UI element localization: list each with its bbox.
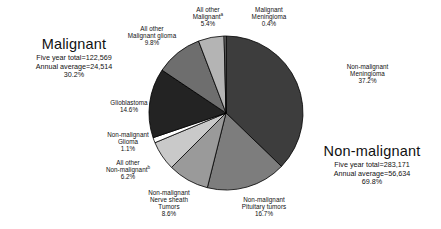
slice-label-all-other-nonmalignant: All other Non-malignantb 6.2% — [86, 159, 170, 180]
slice-label-line2: Meningioma — [252, 13, 287, 20]
slice-label-line1: Non-malignant — [347, 63, 389, 70]
summary-malignant: Malignant Five year total=122,569 Annual… — [6, 36, 142, 80]
summary-nonmalignant: Non-malignant Five year total=283,171 An… — [306, 143, 438, 187]
slice-label-nonmalignant-meningioma: Non-malignant Meningioma 37.2% — [320, 63, 415, 84]
slice-label-line1: All other — [140, 25, 164, 32]
slice-label-line2: Malignant — [193, 13, 221, 20]
slice-label-line1: All other — [196, 6, 220, 13]
slice-label-line1: Non-malignant — [107, 131, 149, 138]
slice-label-line2: Non-malignant — [106, 166, 148, 173]
pie-slice-group: Non-malignant Meningioma 37.2%Non-malign… — [149, 36, 303, 190]
summary-percent: 69.8% — [306, 178, 438, 186]
footnote-marker: a — [221, 12, 224, 17]
summary-heading: Malignant — [6, 36, 142, 53]
slice-label-percent: 0.4% — [238, 20, 300, 27]
summary-heading: Non-malignant — [306, 143, 438, 160]
slice-label-percent: 16.7% — [218, 210, 310, 217]
slice-label-nonmalignant-pituitary: Non-malignant Pituitary tumors 16.7% — [218, 196, 310, 217]
slice-label-line1: Non-malignant — [243, 196, 285, 203]
slice-label-nonmalignant-glioma: Non-malignant Glioma 1.1% — [86, 131, 170, 152]
pie-chart-svg: Non-malignant Meningioma 37.2%Non-malign… — [0, 0, 441, 229]
slice-label-all-other-malignant: All other Malignanta 5.4% — [177, 6, 239, 27]
slice-label-percent: 14.6% — [93, 106, 165, 113]
slice-label-percent: 8.6% — [128, 210, 210, 217]
slice-label-percent: 37.2% — [320, 77, 415, 84]
pie-chart-figure: Non-malignant Meningioma 37.2%Non-malign… — [0, 0, 441, 229]
slice-label-line1: Glioblastoma — [110, 99, 147, 106]
slice-label-line1: All other — [116, 159, 140, 166]
slice-label-line3: Tumors — [158, 203, 179, 210]
summary-percent: 30.2% — [6, 71, 142, 79]
slice-label-line1: Malignant — [255, 6, 283, 13]
slice-label-percent: 5.4% — [177, 20, 239, 27]
slice-label-glioblastoma: Glioblastoma 14.6% — [93, 99, 165, 113]
slice-label-malignant-meningioma: Malignant Meningioma 0.4% — [238, 6, 300, 27]
slice-label-percent: 6.2% — [86, 173, 170, 180]
slice-label-line2: Pituitary tumors — [242, 203, 287, 210]
slice-label-nonmalignant-nerve-sheath: Non-malignant Nerve sheath Tumors 8.6% — [128, 189, 210, 217]
slice-label-percent: 1.1% — [86, 145, 170, 152]
footnote-marker: b — [148, 165, 151, 170]
slice-label-line2: Meningioma — [350, 70, 385, 77]
slice-label-line2: Nerve sheath — [150, 196, 188, 203]
slice-label-line2: Glioma — [118, 138, 138, 145]
slice-label-line1: Non-malignant — [148, 189, 190, 196]
